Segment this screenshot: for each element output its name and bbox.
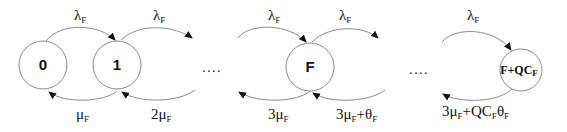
state-0: 0 <box>19 41 67 89</box>
ellipsis-1: .... <box>202 59 222 75</box>
state-F-label: F <box>305 58 314 75</box>
state-0-label: 0 <box>39 56 47 73</box>
backward-arc-Fp1-F <box>313 90 385 100</box>
ellipsis-2: .... <box>409 61 429 77</box>
rate-lambda-4: λF <box>467 7 479 25</box>
rate-lambda-0: λF <box>74 7 86 25</box>
rate-mu-theta: 3μF+θF <box>336 106 377 124</box>
backward-arc-1-0 <box>49 91 117 100</box>
rate-mu-1: μF <box>76 106 89 124</box>
forward-arc-1-2 <box>121 28 192 40</box>
state-1: 1 <box>93 41 141 89</box>
backward-arc-2-1 <box>122 90 195 100</box>
forward-arc-0-1 <box>46 27 115 41</box>
state-F-plus-QCF: F+QCF <box>500 49 542 91</box>
rate-mu-3: 3μF <box>268 106 289 124</box>
forward-arc-last <box>442 32 511 50</box>
rate-lambda-2: λF <box>268 7 280 25</box>
state-1-label: 1 <box>113 56 121 73</box>
backward-arc-last <box>443 89 512 100</box>
forward-arc-Fm1-F <box>238 27 306 42</box>
state-F: F <box>286 43 334 91</box>
markov-chain-diagram: 0 1 F F+QCF .... .... λF λF λF λF λF μF … <box>0 0 567 132</box>
rate-lambda-1: λF <box>153 7 165 25</box>
forward-arc-F-Fp1 <box>312 29 378 42</box>
rate-mu-2: 2μF <box>151 106 172 124</box>
backward-arc-F-Fm1 <box>239 91 310 100</box>
rate-mu-qc-theta: 3μF+QCFθF <box>442 103 509 121</box>
rate-lambda-3: λF <box>339 7 351 25</box>
